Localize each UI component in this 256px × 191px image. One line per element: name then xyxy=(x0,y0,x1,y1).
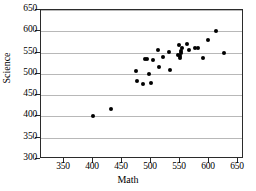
data-point xyxy=(156,48,160,52)
y-tick-label: 400 xyxy=(7,110,37,120)
plot-area xyxy=(40,9,243,158)
data-point xyxy=(135,79,139,83)
data-point xyxy=(151,58,155,62)
data-point xyxy=(168,68,172,72)
data-point xyxy=(91,114,95,118)
data-point xyxy=(222,51,226,55)
gridline xyxy=(41,95,242,96)
y-tick-label: 350 xyxy=(7,132,37,142)
y-axis-title: Science xyxy=(2,28,12,108)
data-point xyxy=(157,65,161,69)
gridline xyxy=(41,31,242,32)
y-tick-label: 300 xyxy=(7,153,37,163)
x-tick-label: 450 xyxy=(106,162,136,172)
data-point xyxy=(141,82,145,86)
data-point xyxy=(185,42,189,46)
x-tick-label: 500 xyxy=(135,162,165,172)
x-tick-label: 350 xyxy=(48,162,78,172)
x-tick-label: 650 xyxy=(222,162,252,172)
data-point xyxy=(214,29,218,33)
data-point xyxy=(196,46,200,50)
data-point xyxy=(147,72,151,76)
x-tick-label: 400 xyxy=(77,162,107,172)
gridline xyxy=(41,74,242,75)
data-point xyxy=(149,81,153,85)
data-point xyxy=(134,69,138,73)
x-tick-label: 600 xyxy=(193,162,223,172)
gridline xyxy=(41,138,242,139)
y-tick-label: 650 xyxy=(7,4,37,14)
data-point xyxy=(109,107,113,111)
gridline xyxy=(41,10,242,11)
gridline xyxy=(41,116,242,117)
x-tick-label: 550 xyxy=(164,162,194,172)
x-axis-title: Math xyxy=(0,175,256,185)
data-point xyxy=(180,46,184,50)
scatter-chart: 300350400450500550600650 350400450500550… xyxy=(0,0,256,191)
data-point xyxy=(187,48,191,52)
data-point xyxy=(145,57,149,61)
data-point xyxy=(161,55,165,59)
gridline xyxy=(41,53,242,54)
data-point xyxy=(201,56,205,60)
data-point xyxy=(206,38,210,42)
